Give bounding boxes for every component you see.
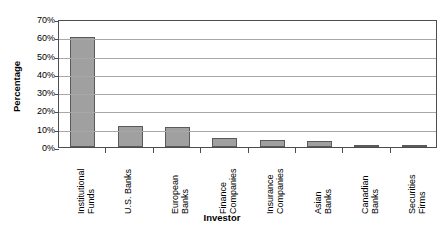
y-axis-title: Percentage <box>7 44 27 128</box>
x-category-label-line: U.S. Banks <box>124 169 134 214</box>
y-tick-label: 50% <box>25 52 55 62</box>
y-tick-mark <box>55 131 59 132</box>
y-tick-label: 10% <box>25 125 55 135</box>
x-category-label-line: Banks <box>370 189 380 214</box>
y-tick-mark <box>55 58 59 59</box>
gridline <box>59 39 436 40</box>
gridline <box>59 76 436 77</box>
x-category-label-line: Funds <box>86 189 96 214</box>
bar <box>307 141 332 147</box>
x-category-label: CanadianBanks <box>361 152 381 214</box>
gridline <box>59 94 436 95</box>
gridline <box>59 58 436 59</box>
x-category-label-line: Companies <box>276 168 286 214</box>
x-category-label-line: Banks <box>323 189 333 214</box>
gridline <box>59 131 436 132</box>
y-tick-label: 30% <box>25 88 55 98</box>
x-category-label: U.S. Banks <box>124 152 144 214</box>
y-axis-tick-labels: 0%10%20%30%40%50%60%70% <box>27 14 57 154</box>
x-axis-title-label: Investor <box>204 212 241 223</box>
y-axis-title-label: Percentage <box>12 60 23 111</box>
x-category-label: SecuritiesFirms <box>408 152 428 214</box>
gridline <box>59 112 436 113</box>
bar <box>260 140 285 147</box>
y-tick-label: 60% <box>25 33 55 43</box>
y-tick-mark <box>55 21 59 22</box>
bar <box>354 145 379 148</box>
x-category-label: InsuranceCompanies <box>266 152 286 214</box>
x-axis-title: Investor <box>0 212 444 223</box>
y-tick-mark <box>55 112 59 113</box>
x-category-label-line: Firms <box>418 192 428 215</box>
bar <box>402 145 427 148</box>
y-tick-label: 20% <box>25 106 55 116</box>
x-category-label-line: Institutional <box>77 168 87 214</box>
bar <box>118 126 143 147</box>
bar <box>212 138 237 147</box>
x-category-label: FinanceCompanies <box>219 152 239 214</box>
x-category-label: EuropeanBanks <box>171 152 191 214</box>
x-category-label-line: Canadian <box>361 175 371 214</box>
x-category-label: InstitutionalFunds <box>77 152 97 214</box>
x-category-label-line: Finance <box>219 182 229 214</box>
x-category-label-line: Companies <box>228 168 238 214</box>
y-tick-mark <box>55 39 59 40</box>
bar-chart: Percentage 0%10%20%30%40%50%60%70% Insti… <box>0 0 444 243</box>
y-tick-label: 40% <box>25 70 55 80</box>
x-category-label-line: Banks <box>181 189 191 214</box>
y-tick-mark <box>55 94 59 95</box>
x-axis-category-labels: InstitutionalFundsU.S. BanksEuropeanBank… <box>58 152 437 214</box>
x-category-label: AsianBanks <box>314 152 334 214</box>
x-category-label-line: Asian <box>314 191 324 214</box>
y-tick-label: 70% <box>25 15 55 25</box>
y-tick-mark <box>55 76 59 77</box>
plot-area <box>58 20 437 148</box>
y-tick-label: 0% <box>25 143 55 153</box>
